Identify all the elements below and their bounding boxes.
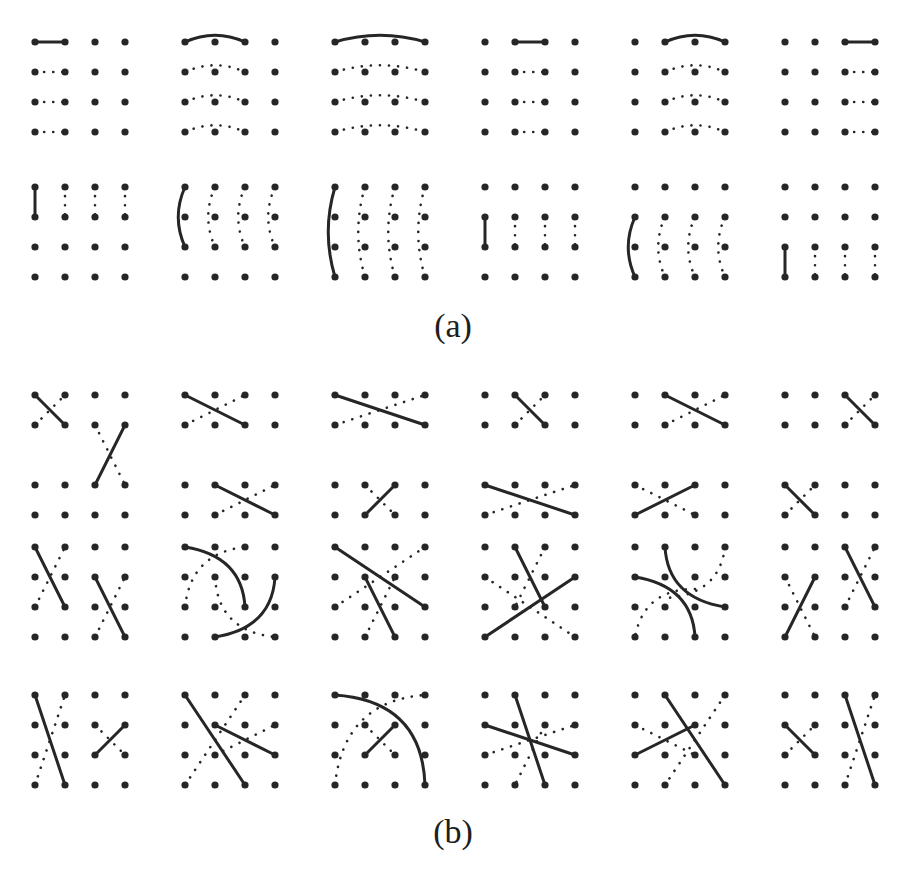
lattice-dot	[691, 543, 698, 550]
lattice-dot	[241, 98, 248, 105]
lattice-panel-a7	[15, 167, 135, 287]
lattice-dot	[661, 751, 668, 758]
lattice-dot	[361, 213, 368, 220]
lattice-dot	[361, 128, 368, 135]
lattice-dot	[421, 721, 428, 728]
lattice-dot	[541, 183, 548, 190]
lattice-dot	[631, 98, 638, 105]
lattice-dot	[421, 511, 428, 518]
lattice-dot	[391, 391, 398, 398]
lattice-dot	[31, 751, 38, 758]
lattice-dot	[421, 481, 428, 488]
lattice-dot	[631, 781, 638, 788]
lattice-dot	[721, 511, 728, 518]
lattice-panel-a5	[615, 22, 735, 142]
lattice-panel-b16	[465, 675, 585, 795]
lattice-dot	[541, 481, 548, 488]
lattice-dot	[481, 183, 488, 190]
lattice-dot	[631, 543, 638, 550]
lattice-dot	[241, 511, 248, 518]
lattice-dot	[841, 213, 848, 220]
lattice-dot	[781, 183, 788, 190]
lattice-dot	[841, 633, 848, 640]
lattice-panel-a4	[465, 22, 585, 142]
lattice-dot	[361, 603, 368, 610]
lattice-dot	[241, 68, 248, 75]
lattice-dot	[781, 128, 788, 135]
lattice-dot	[541, 391, 548, 398]
lattice-dot	[631, 128, 638, 135]
lattice-panel-b3	[315, 375, 435, 495]
lattice-panel-b6	[765, 375, 885, 495]
lattice-dot	[631, 391, 638, 398]
lattice-dot	[271, 243, 278, 250]
lattice-dot	[91, 781, 98, 788]
lattice-panel-b9	[315, 527, 435, 647]
lattice-dot	[661, 781, 668, 788]
lattice-dot	[691, 273, 698, 280]
lattice-dot	[481, 781, 488, 788]
lattice-panel-b2	[165, 375, 285, 495]
lattice-dot	[691, 573, 698, 580]
lattice-dot	[391, 781, 398, 788]
lattice-dot	[571, 603, 578, 610]
lattice-dot	[211, 421, 218, 428]
lattice-panel-b10	[465, 527, 585, 647]
lattice-dot	[421, 633, 428, 640]
lattice-dot	[631, 243, 638, 250]
lattice-dot	[271, 391, 278, 398]
lattice-dot	[481, 68, 488, 75]
solid-curved-bond	[328, 187, 335, 277]
lattice-dot	[391, 543, 398, 550]
lattice-dot	[91, 128, 98, 135]
lattice-dot	[721, 273, 728, 280]
lattice-panel-b15	[315, 675, 435, 795]
caption-b: (b)	[393, 815, 513, 849]
lattice-dot	[511, 721, 518, 728]
lattice-dot	[421, 391, 428, 398]
lattice-dot	[661, 573, 668, 580]
lattice-dot	[361, 391, 368, 398]
caption-a: (a)	[393, 309, 513, 343]
lattice-dot	[121, 751, 128, 758]
lattice-panel-a11	[615, 167, 735, 287]
lattice-dot	[541, 633, 548, 640]
lattice-dot	[571, 98, 578, 105]
lattice-dot	[811, 213, 818, 220]
lattice-dot	[61, 573, 68, 580]
lattice-dot	[241, 751, 248, 758]
dotted-curved-bond	[335, 95, 425, 102]
lattice-dot	[781, 98, 788, 105]
lattice-panel-b4	[465, 375, 585, 495]
lattice-dot	[811, 68, 818, 75]
lattice-dot	[391, 243, 398, 250]
lattice-dot	[241, 481, 248, 488]
lattice-dot	[181, 481, 188, 488]
lattice-dot	[391, 68, 398, 75]
lattice-dot	[211, 603, 218, 610]
lattice-dot	[691, 781, 698, 788]
lattice-dot	[121, 511, 128, 518]
lattice-dot	[91, 391, 98, 398]
lattice-dot	[871, 481, 878, 488]
lattice-dot	[391, 213, 398, 220]
lattice-dot	[331, 751, 338, 758]
lattice-dot	[811, 603, 818, 610]
dotted-curved-bond	[665, 547, 725, 598]
lattice-dot	[691, 68, 698, 75]
lattice-dot	[361, 243, 368, 250]
lattice-dot	[841, 183, 848, 190]
lattice-dot	[511, 183, 518, 190]
lattice-dot	[391, 38, 398, 45]
lattice-dot	[571, 721, 578, 728]
lattice-dot	[181, 511, 188, 518]
lattice-dot	[181, 273, 188, 280]
lattice-dot	[811, 781, 818, 788]
lattice-dot	[361, 68, 368, 75]
lattice-dot	[571, 183, 578, 190]
lattice-dot	[121, 781, 128, 788]
lattice-dot	[211, 243, 218, 250]
lattice-dot	[391, 751, 398, 758]
lattice-dot	[211, 273, 218, 280]
lattice-dot	[331, 573, 338, 580]
